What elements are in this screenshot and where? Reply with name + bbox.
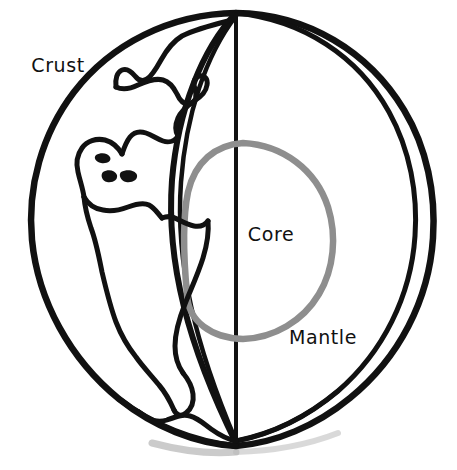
land-south-america-north [84, 197, 162, 218]
land-patagonia [174, 373, 193, 415]
land-island-cuba [95, 153, 111, 163]
label-core: Core [248, 223, 294, 245]
land-island-hispaniola [102, 170, 118, 182]
globe-icon: Crust Core Mantle [0, 0, 457, 470]
label-mantle: Mantle [289, 326, 357, 348]
land-island-puerto-rico [120, 170, 137, 182]
label-crust: Crust [31, 54, 84, 76]
land-mexico [122, 132, 178, 154]
land-central-america [77, 139, 122, 197]
earth-layers-diagram: Crust Core Mantle [0, 0, 457, 470]
